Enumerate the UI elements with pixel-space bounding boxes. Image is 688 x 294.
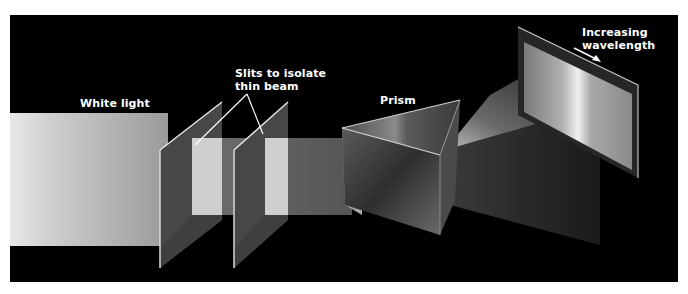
white-light-beam	[10, 113, 168, 246]
prism	[342, 100, 460, 235]
wavelength-label-line1: Increasing	[582, 26, 655, 39]
white-light-label: White light	[80, 97, 150, 110]
slits-label-line2: thin beam	[235, 80, 326, 93]
wavelength-label: Increasing wavelength	[582, 26, 655, 52]
prism-label: Prism	[380, 94, 416, 107]
slits-label-line1: Slits to isolate	[235, 67, 326, 80]
wavelength-label-line2: wavelength	[582, 39, 655, 52]
slit-2	[234, 102, 288, 268]
slits-label: Slits to isolate thin beam	[235, 67, 326, 93]
